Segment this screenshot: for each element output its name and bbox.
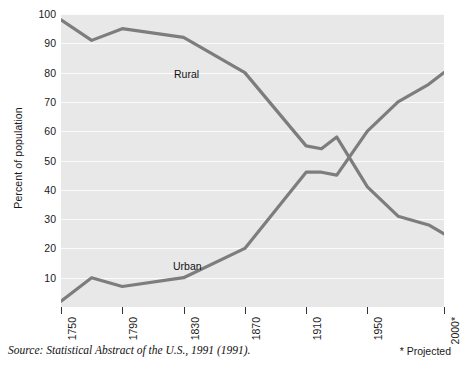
y-axis-tick-label: 20 — [22, 242, 56, 254]
x-axis-tick-label: 2000* — [449, 317, 461, 344]
x-axis-tick-mark — [184, 307, 185, 314]
y-axis-tick-label: 10 — [22, 272, 56, 284]
x-axis-tick-mark — [367, 307, 368, 314]
rural-line — [61, 20, 444, 234]
y-axis-tick-label: 30 — [22, 213, 56, 225]
source-note: Source: Statistical Abstract of the U.S.… — [8, 344, 250, 356]
x-axis-tick-label: 1910 — [311, 317, 323, 340]
y-axis-tick-label: 80 — [22, 67, 56, 79]
x-axis-tick-mark — [61, 307, 62, 314]
x-axis-tick-mark — [444, 307, 445, 314]
y-axis-tick-label: 70 — [22, 96, 56, 108]
x-axis-tick-mark — [306, 307, 307, 314]
x-axis-tick-mark — [245, 307, 246, 314]
x-axis-tick-labels: 1750179018301870191019502000* — [0, 307, 459, 368]
urban-series-label: Urban — [173, 260, 202, 272]
x-axis-tick-label: 1830 — [189, 317, 201, 340]
series-lines — [61, 14, 444, 307]
y-axis-tick-label: 40 — [22, 184, 56, 196]
x-axis-tick-label: 1750 — [66, 317, 78, 340]
rural-series-label: Rural — [174, 68, 199, 80]
y-axis-tick-label: 60 — [22, 125, 56, 137]
plot-area: Rural Urban — [61, 14, 444, 307]
projected-note: * Projected — [400, 345, 451, 357]
x-axis-tick-label: 1950 — [372, 317, 384, 340]
y-axis-tick-label: 100 — [22, 8, 56, 20]
y-axis-tick-label: 90 — [22, 37, 56, 49]
y-axis-tick-label: 50 — [22, 155, 56, 167]
x-axis-tick-mark — [122, 307, 123, 314]
urban-line — [61, 73, 444, 302]
x-axis-tick-label: 1870 — [250, 317, 262, 340]
x-axis-tick-label: 1790 — [127, 317, 139, 340]
